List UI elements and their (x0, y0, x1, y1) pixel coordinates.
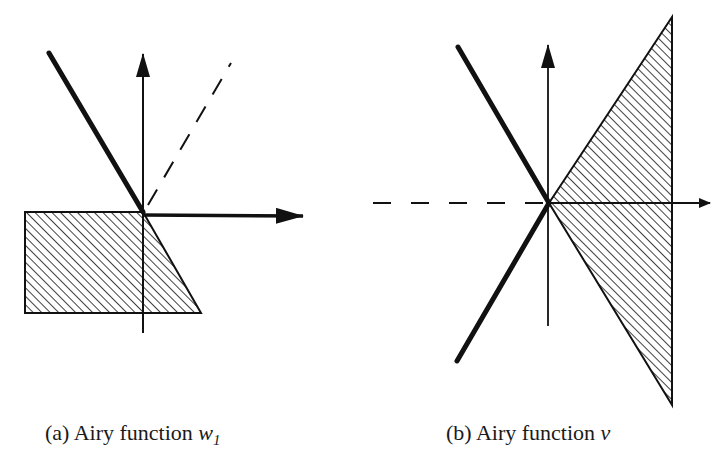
panel-a (25, 53, 303, 333)
panel-b (373, 17, 710, 405)
thick-ray-upper (458, 47, 549, 203)
caption-b: (b) Airy function v (446, 420, 610, 446)
thick-ray (49, 53, 143, 212)
hatched-region (25, 212, 201, 313)
caption-a: (a) Airy function w1 (45, 420, 221, 449)
horizontal-axis-arrow (143, 215, 303, 216)
hatched-region (549, 17, 672, 405)
caption-b-text: (b) Airy function (446, 420, 601, 445)
caption-a-subscript: 1 (213, 432, 221, 448)
airy-diagram (0, 0, 725, 453)
caption-b-variable: v (601, 420, 611, 445)
caption-a-text: (a) Airy function (45, 420, 198, 445)
dashed-ray (148, 63, 231, 205)
caption-a-variable: w (198, 420, 213, 445)
thick-ray-lower (457, 203, 549, 361)
